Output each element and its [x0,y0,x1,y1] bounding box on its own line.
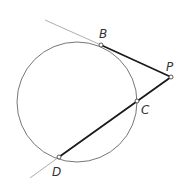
label-c: C [141,103,150,117]
label-b: B [99,27,107,41]
geometry-diagram: B P C D [0,0,177,188]
tangent-segment-pb [101,45,171,77]
tangent-extension [45,20,101,45]
point-b [99,43,103,47]
point-c [135,99,139,103]
label-p: P [166,60,174,74]
point-p [169,75,173,79]
label-d: D [52,165,61,179]
secant-segment-pd [59,77,171,157]
point-d [57,155,61,159]
